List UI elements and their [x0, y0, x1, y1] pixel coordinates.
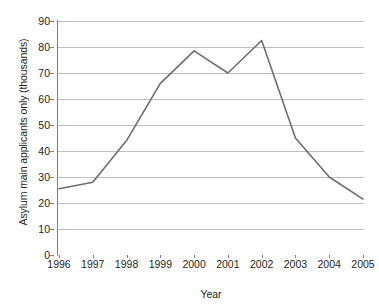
x-axis-ticks: 1996199719981999200020012002200320042005 [58, 258, 364, 274]
y-tick-label: 70 [6, 68, 50, 78]
y-axis-ticks: 0102030405060708090 [0, 21, 50, 255]
x-tick-label: 2005 [343, 258, 379, 270]
x-tick-mark [93, 255, 94, 258]
plot-area [58, 21, 364, 255]
y-tick-mark [50, 73, 54, 74]
x-tick-mark [363, 255, 364, 258]
x-tick-mark [59, 255, 60, 258]
y-tick-label: 50 [6, 120, 50, 130]
y-tick-label: 20 [6, 198, 50, 208]
y-tick-label: 10 [6, 224, 50, 234]
y-tick-mark [50, 125, 54, 126]
y-tick-mark [50, 21, 54, 22]
x-tick-mark [295, 255, 296, 258]
series-polyline [59, 41, 363, 200]
y-tick-label: 40 [6, 146, 50, 156]
y-tick-mark [50, 177, 54, 178]
y-tick-label: 60 [6, 94, 50, 104]
y-tick-label: 90 [6, 16, 50, 26]
y-tick-mark [50, 229, 54, 230]
y-tick-mark [50, 255, 54, 256]
x-tick-mark [329, 255, 330, 258]
y-tick-mark [50, 47, 54, 48]
data-series-line [58, 21, 364, 255]
y-tick-mark [50, 151, 54, 152]
x-tick-mark [228, 255, 229, 258]
y-tick-mark [50, 203, 54, 204]
y-tick-label: 80 [6, 42, 50, 52]
x-tick-mark [127, 255, 128, 258]
y-tick-mark [50, 99, 54, 100]
y-tick-label: 30 [6, 172, 50, 182]
x-axis-title: Year [58, 288, 364, 300]
x-tick-mark [194, 255, 195, 258]
x-tick-mark [160, 255, 161, 258]
x-tick-mark [262, 255, 263, 258]
